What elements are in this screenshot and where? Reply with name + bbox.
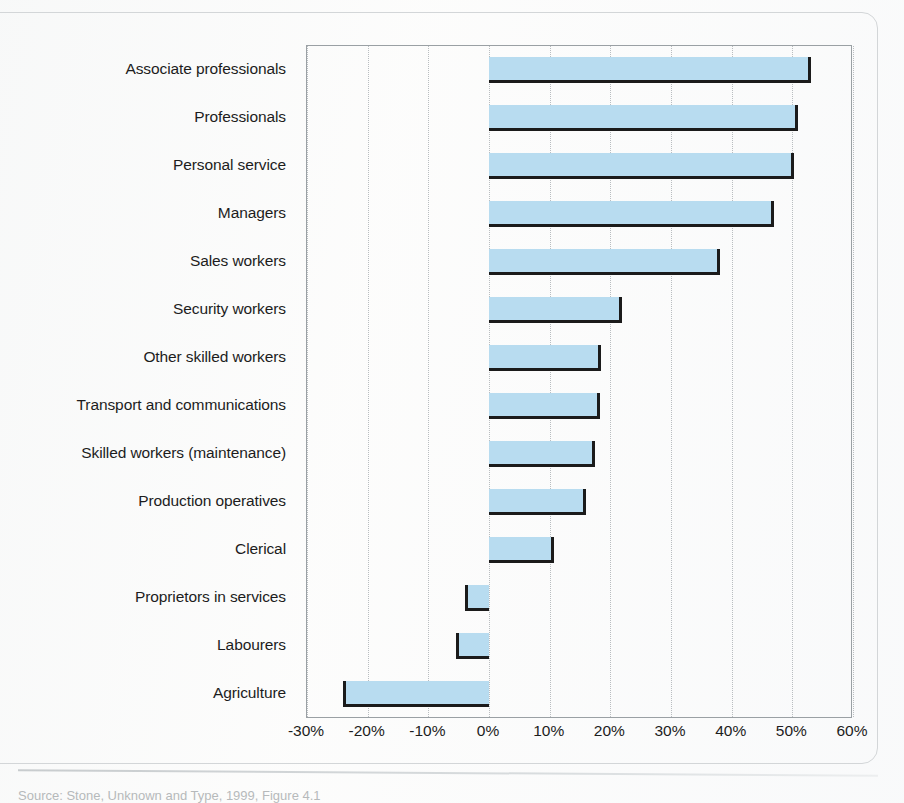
category-label-column: Associate professionalsProfessionalsPers… xyxy=(0,45,296,718)
category-label: Other skilled workers xyxy=(143,347,286,367)
bar-row xyxy=(307,145,851,193)
bar[interactable] xyxy=(489,105,798,131)
bar[interactable] xyxy=(489,537,554,563)
x-tick-label: -30% xyxy=(288,722,324,740)
bar-row xyxy=(307,529,851,577)
x-tick-label: 30% xyxy=(654,722,685,740)
bar[interactable] xyxy=(489,57,811,83)
bar-row xyxy=(307,385,851,433)
category-label: Personal service xyxy=(173,155,286,175)
x-tick-label: 60% xyxy=(836,722,867,740)
bar-row xyxy=(307,433,851,481)
bar-row xyxy=(307,289,851,337)
category-label: Sales workers xyxy=(190,251,286,271)
bar-row xyxy=(307,97,851,145)
category-label: Transport and communications xyxy=(77,395,286,415)
bar[interactable] xyxy=(343,681,489,707)
x-tick-label: 20% xyxy=(594,722,625,740)
bar[interactable] xyxy=(489,249,720,275)
bar[interactable] xyxy=(489,297,622,323)
bar-row xyxy=(307,577,851,625)
bar-row xyxy=(307,49,851,97)
category-label: Skilled workers (maintenance) xyxy=(81,443,286,463)
x-tick-label: -10% xyxy=(409,722,445,740)
bar-row xyxy=(307,241,851,289)
category-label: Clerical xyxy=(235,539,286,559)
x-tick-label: -20% xyxy=(349,722,385,740)
category-label: Managers xyxy=(218,203,286,223)
bar[interactable] xyxy=(489,201,774,227)
x-tick-label: 40% xyxy=(715,722,746,740)
x-tick-label: 10% xyxy=(533,722,564,740)
bar[interactable] xyxy=(489,345,601,371)
bar-row xyxy=(307,193,851,241)
bar-row xyxy=(307,337,851,385)
category-label: Security workers xyxy=(173,299,286,319)
category-label: Proprietors in services xyxy=(135,587,286,607)
caption-divider-rule xyxy=(18,769,878,776)
source-caption: Source: Stone, Unknown and Type, 1999, F… xyxy=(18,788,321,803)
plot-area xyxy=(306,45,852,718)
bar[interactable] xyxy=(489,393,600,419)
bar-row xyxy=(307,625,851,673)
bar[interactable] xyxy=(465,585,489,611)
category-label: Production operatives xyxy=(138,491,286,511)
bar[interactable] xyxy=(489,441,595,467)
category-label: Professionals xyxy=(194,107,286,127)
category-label: Agriculture xyxy=(213,683,286,703)
gridline-60pct xyxy=(853,46,854,717)
bar[interactable] xyxy=(456,633,489,659)
bar[interactable] xyxy=(489,153,794,179)
category-label: Labourers xyxy=(217,635,286,655)
bar-row xyxy=(307,673,851,721)
x-tick-label: 50% xyxy=(776,722,807,740)
x-tick-label: 0% xyxy=(477,722,499,740)
x-axis-tick-labels: -30%-20%-10%0%10%20%30%40%50%60% xyxy=(306,722,852,748)
bar[interactable] xyxy=(489,489,586,515)
bar-row xyxy=(307,481,851,529)
category-label: Associate professionals xyxy=(125,59,286,79)
